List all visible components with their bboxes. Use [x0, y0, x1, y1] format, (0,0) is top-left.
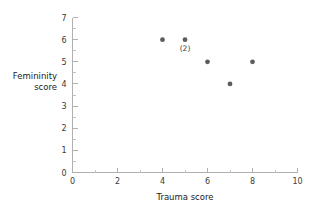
x-axis-tick-label: 10: [292, 177, 302, 186]
data-point: [228, 82, 233, 87]
scatter-plot-figure: 012345670246810Trauma scoreFemininitysco…: [0, 0, 319, 204]
x-axis-tick-label: 0: [70, 177, 75, 186]
data-point-annotation: (2): [180, 44, 191, 53]
data-point: [183, 37, 188, 42]
y-axis-tick-label: 6: [61, 36, 66, 45]
y-axis-tick-label: 5: [61, 58, 66, 67]
data-point: [205, 59, 210, 64]
x-axis-tick-label: 4: [160, 177, 165, 186]
y-axis-title-line: Femininity: [13, 71, 57, 81]
y-axis-tick-label: 7: [61, 14, 66, 23]
chart-canvas: 012345670246810Trauma scoreFemininitysco…: [0, 0, 319, 204]
x-axis-tick-label: 6: [205, 177, 210, 186]
y-axis-tick-label: 2: [61, 124, 66, 133]
y-axis-title: Femininityscore: [13, 71, 57, 92]
y-axis-title-line: score: [34, 82, 57, 92]
y-axis-tick-label: 0: [61, 169, 66, 178]
x-axis-tick-label: 2: [115, 177, 120, 186]
y-axis-tick-label: 1: [61, 146, 66, 155]
y-axis-tick-label: 4: [61, 80, 66, 89]
x-axis-tick-label: 8: [250, 177, 255, 186]
x-axis-title: Trauma score: [155, 192, 213, 202]
data-point: [250, 59, 255, 64]
y-axis-tick-label: 3: [61, 102, 66, 111]
data-point: [160, 37, 165, 42]
data-point-group: (2): [160, 37, 255, 86]
